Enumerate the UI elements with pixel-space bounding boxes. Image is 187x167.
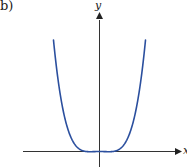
x-axis-arrow-icon — [175, 148, 182, 155]
y-axis-arrow-icon — [96, 12, 103, 19]
plot-area — [0, 0, 187, 167]
